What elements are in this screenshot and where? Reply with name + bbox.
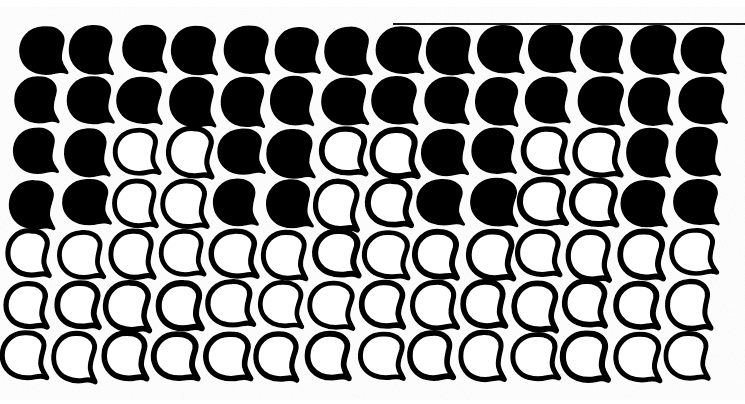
teardrop-tile [15,78,58,123]
teardrop-tile [519,179,566,224]
teardrop-tile [629,78,672,125]
teardrop-tile [372,130,418,177]
teardrop-tile [679,77,726,124]
teardrop-tile [628,129,670,176]
teardrop-tile [59,232,104,279]
teardrop-tile [206,334,251,379]
teardrop-tile [578,77,625,125]
teardrop-tile [259,281,304,326]
teardrop-tile [471,179,518,226]
teardrop-tile [475,77,519,125]
teardrop-tile [153,334,198,379]
teardrop-tile [110,231,154,278]
teardrop-tile [104,333,147,379]
teardrop-tile [6,283,48,327]
teardrop-tile [271,77,314,125]
teardrop-tile [263,232,307,279]
teardrop-tile [478,26,524,72]
teardrop-tile [325,27,372,75]
teardrop-tile [52,332,97,382]
teardrop-tile [512,334,559,380]
teardrop-tile [674,180,719,224]
teardrop-tile [117,77,163,123]
teardrop-tile [529,26,575,73]
teardrop-tile [564,280,608,326]
teardrop-tile [526,78,569,123]
teardrop-tile [682,28,725,72]
teardrop-tile [314,230,360,275]
teardrop-tile [377,28,422,73]
teardrop-tile [409,332,454,379]
teardrop-tile [361,282,405,327]
teardrop-tile [418,180,464,224]
teardrop-tile [105,282,151,331]
teardrop-tile [568,232,611,280]
teardrop-tile [425,77,471,124]
teardrop-tile [615,334,661,381]
teardrop-tile [13,128,57,174]
teardrop-tile [162,181,207,227]
teardrop-tile [426,27,473,75]
teardrop-tile [63,180,110,225]
teardrop-tile [322,79,368,125]
scan-canvas [0,0,745,404]
teardrop-tile [267,180,313,228]
teardrop-tile [616,283,659,327]
teardrop-tile [580,26,624,73]
teardrop-tile [158,283,201,329]
teardrop-tile [276,28,320,72]
teardrop-tile [321,128,367,173]
teardrop-tile [123,25,168,72]
teardrop-tile [70,26,114,74]
teardrop-tile [563,333,608,380]
teardrop-tile [622,181,666,226]
teardrop-tile [670,229,716,275]
teardrop-tile [10,181,55,228]
teardrop-tile [67,77,113,124]
teardrop-tile [421,129,467,176]
teardrop-tile [171,78,215,126]
teardrop-tile [167,127,214,177]
teardrop-tile [172,27,217,74]
teardrop-tile [307,333,350,378]
teardrop-tile [267,130,314,178]
teardrop-tile [468,231,514,278]
teardrop-tile [666,333,709,378]
teardrop-tile [575,130,621,176]
teardrop-tile [309,282,356,329]
teardrop-tile [57,282,101,327]
teardrop-tile [114,129,159,174]
teardrop-tile [517,231,560,275]
teardrop-tile [255,333,299,380]
teardrop-tile [676,128,719,176]
teardrop-tile [631,26,678,74]
teardrop-tile [218,129,264,175]
teardrop-tile [363,231,410,278]
teardrop-tile [667,281,711,330]
teardrop-tile [571,180,617,225]
teardrop-tile [513,282,558,330]
teardrop-tile [460,332,504,381]
teardrop-tile [360,333,406,378]
teardrop-tile [367,180,412,225]
teardrop-tile [2,332,47,378]
teardrop-tile [214,179,258,225]
teardrop-tile [161,231,204,275]
teardrop-tile [372,77,418,123]
teardrop-tile [463,282,506,327]
teardrop-tile [412,281,458,329]
teardrop-tile [114,181,156,226]
teardrop-tile [523,129,567,173]
teardrop-tile [314,180,360,230]
teardrop-tile [221,78,265,127]
teardrop-tile [473,129,516,173]
teardrop-tile [8,231,50,276]
teardrop-tile [211,231,257,276]
teardrop-tile [64,129,109,177]
teardrop-tile [20,27,67,75]
teardrop-tile [414,231,459,278]
teardrop-tile [619,231,665,279]
teardrop-pattern-figure [0,0,745,404]
teardrop-tile [225,27,270,73]
teardrop-tile [207,281,254,327]
